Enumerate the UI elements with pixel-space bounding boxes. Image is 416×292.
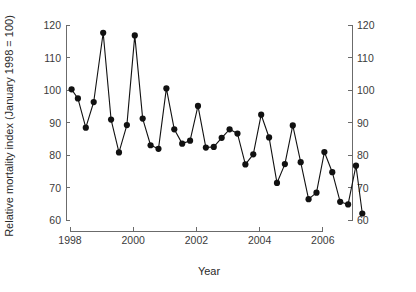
data-point <box>345 201 351 207</box>
data-point <box>274 180 280 186</box>
y-axis-left-tick-label: 60 <box>49 214 61 226</box>
data-point <box>337 199 343 205</box>
data-point <box>116 149 122 155</box>
data-point <box>211 144 217 150</box>
y-axis-left-tick-label: 90 <box>49 117 61 129</box>
data-point <box>359 210 365 216</box>
x-axis-tick-label: 2000 <box>122 234 146 246</box>
data-point <box>321 149 327 155</box>
data-point <box>242 161 248 167</box>
y-axis-left-tick-label: 70 <box>49 182 61 194</box>
data-point <box>226 126 232 132</box>
y-axis-left-tick-label: 120 <box>43 19 61 31</box>
chart-figure: 6070809010011012060708090100110120199820… <box>0 0 416 292</box>
data-point <box>266 134 272 140</box>
x-axis-tick-label: 1998 <box>58 234 82 246</box>
data-point <box>353 163 359 169</box>
y-axis-title: Relative mortality index (January 1998 =… <box>3 15 15 237</box>
data-point <box>83 125 89 131</box>
y-axis-left-tick-label: 80 <box>49 149 61 161</box>
data-point <box>171 126 177 132</box>
x-axis-tick-label: 2004 <box>248 234 272 246</box>
data-point <box>124 122 130 128</box>
data-point <box>187 138 193 144</box>
y-axis-right-tick-label: 100 <box>357 84 375 96</box>
data-point <box>147 142 153 148</box>
data-point <box>140 116 146 122</box>
series-line <box>72 33 363 214</box>
data-point <box>298 159 304 165</box>
data-point <box>282 161 288 167</box>
data-point <box>234 130 240 136</box>
data-point <box>179 141 185 147</box>
x-axis-title: Year <box>198 265 221 277</box>
x-axis-tick-label: 2002 <box>185 234 209 246</box>
y-axis-right-tick-label: 110 <box>357 52 374 64</box>
y-axis-right-tick-label: 80 <box>357 149 369 161</box>
data-point <box>91 99 97 105</box>
data-point <box>250 151 256 157</box>
data-point <box>108 116 114 122</box>
data-point <box>313 190 319 196</box>
y-axis-right-tick-label: 90 <box>357 117 369 129</box>
data-point <box>290 122 296 128</box>
y-axis-right-tick-label: 120 <box>357 19 375 31</box>
data-point <box>100 30 106 36</box>
mortality-index-line-chart: 6070809010011012060708090100110120199820… <box>0 0 416 292</box>
data-point <box>203 144 209 150</box>
data-point <box>329 169 335 175</box>
x-axis-tick-label: 2006 <box>311 234 335 246</box>
data-point <box>132 32 138 38</box>
data-point <box>75 95 81 101</box>
data-point <box>163 85 169 91</box>
data-point <box>258 112 264 118</box>
data-point <box>195 103 201 109</box>
data-point <box>305 196 311 202</box>
data-point <box>155 146 161 152</box>
y-axis-left-tick-label: 100 <box>43 84 61 96</box>
y-axis-left-tick-label: 110 <box>44 52 61 64</box>
data-point <box>219 135 225 141</box>
data-point <box>68 86 74 92</box>
